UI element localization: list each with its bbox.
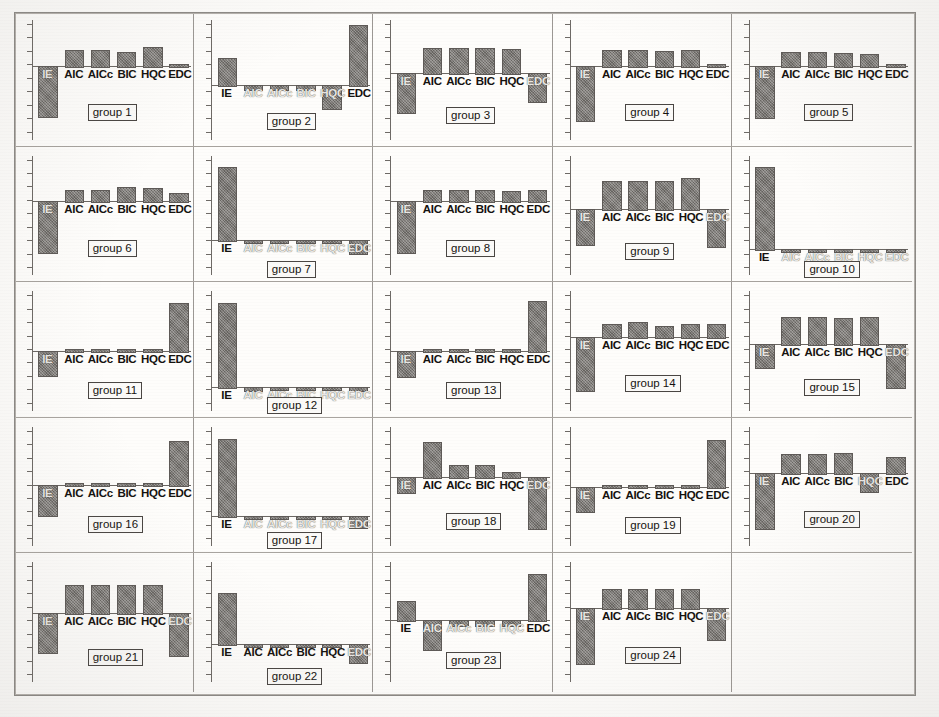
y-axis-tick <box>385 186 391 187</box>
bar <box>218 593 237 646</box>
bar <box>423 48 442 75</box>
y-axis-tick <box>206 160 212 161</box>
bar <box>218 167 237 241</box>
category-label-aic: AIC <box>419 203 446 216</box>
category-label-hqc: HQC <box>499 353 526 366</box>
y-axis-tick <box>206 511 212 512</box>
y-axis-tick <box>565 240 571 241</box>
bar <box>628 322 647 339</box>
category-label-aic: AIC <box>777 475 804 488</box>
y-axis-tick <box>206 376 212 377</box>
category-label-bic: BIC <box>651 489 678 502</box>
category-label-ie: IE <box>572 339 599 352</box>
bar <box>475 465 494 479</box>
category-label-aic: AIC <box>240 646 267 659</box>
panel-group-label: group 24 <box>625 647 680 664</box>
category-label-edc: EDC <box>346 87 373 100</box>
y-axis-tick <box>565 160 571 161</box>
chart-panel: IEAICAICcBICHQCEDCgroup 23 <box>374 556 553 692</box>
y-axis-tick <box>27 254 33 255</box>
chart-panel: IEAICAICcBICHQCEDCgroup 1 <box>16 14 195 150</box>
chart-panel: IEAICAICcBICHQCEDCgroup 11 <box>16 285 195 421</box>
category-axis-labels: IEAICAICcBICHQCEDC <box>34 67 193 82</box>
y-axis-tick <box>27 580 33 581</box>
category-label-edc: EDC <box>525 479 552 492</box>
panel-column-separator <box>372 14 373 692</box>
category-label-bic: BIC <box>472 622 499 635</box>
y-axis-tick <box>565 254 571 255</box>
bar <box>781 317 800 347</box>
y-axis-tick <box>206 431 212 432</box>
panel-group-label: group 3 <box>446 107 495 124</box>
category-label-aicc: AICc <box>266 518 293 531</box>
y-axis-tick <box>206 674 212 675</box>
bar <box>349 25 368 87</box>
y-axis-tick <box>385 376 391 377</box>
y-axis-tick <box>565 634 571 635</box>
category-label-aicc: AICc <box>445 353 472 366</box>
panel-group-label: group 20 <box>804 511 859 528</box>
category-label-aic: AIC <box>598 489 625 502</box>
panel-row-separator <box>16 281 912 282</box>
bar <box>117 187 136 204</box>
category-label-aic: AIC <box>61 68 88 81</box>
y-axis-tick <box>385 118 391 119</box>
y-axis-tick <box>744 51 750 52</box>
chart-panel: IEAICAICcBICHQCEDCgroup 16 <box>16 421 195 557</box>
category-label-aic: AIC <box>777 68 804 81</box>
bar <box>681 178 700 211</box>
category-label-ie: IE <box>751 68 778 81</box>
category-label-ie: IE <box>34 353 61 366</box>
y-axis-tick <box>565 458 571 459</box>
y-axis-tick <box>565 24 571 25</box>
plot-area <box>213 560 370 684</box>
bar <box>628 50 647 68</box>
category-label-aicc: AICc <box>625 610 652 623</box>
bar <box>475 48 494 75</box>
category-axis-labels: IEAICAICcBICHQCEDC <box>34 202 193 217</box>
category-label-hqc: HQC <box>857 475 884 488</box>
category-label-bic: BIC <box>472 75 499 88</box>
category-axis-labels: IEAICAICcBICHQCEDC <box>213 517 372 532</box>
y-axis-tick <box>565 566 571 567</box>
y-axis-tick <box>385 647 391 648</box>
panel-row-separator <box>16 146 912 147</box>
y-axis-tick <box>206 51 212 52</box>
y-axis-tick <box>565 661 571 662</box>
category-label-hqc: HQC <box>857 251 884 264</box>
category-axis-labels: IEAICAICcBICHQCEDC <box>392 202 551 217</box>
category-label-aicc: AICc <box>445 479 472 492</box>
y-axis-tick <box>27 186 33 187</box>
category-label-bic: BIC <box>293 518 320 531</box>
panel-group-label: group 22 <box>267 668 322 685</box>
chart-panel: IEAICAICcBICHQCEDCgroup 24 <box>554 556 733 692</box>
category-label-aic: AIC <box>240 389 267 402</box>
y-axis-tick <box>744 538 750 539</box>
bar <box>808 317 827 347</box>
bar <box>602 324 621 339</box>
panel-group-label: group 15 <box>804 379 859 396</box>
bar <box>886 457 905 475</box>
category-label-aic: AIC <box>61 487 88 500</box>
y-axis-tick <box>206 37 212 38</box>
y-axis-tick <box>385 444 391 445</box>
panel-group-label: group 4 <box>625 104 674 121</box>
y-axis-tick <box>27 91 33 92</box>
panel-group-label: group 17 <box>267 532 322 549</box>
y-axis-tick <box>565 105 571 106</box>
category-label-bic: BIC <box>114 203 141 216</box>
chart-panel: IEAICAICcBICHQCEDCgroup 2 <box>195 14 374 150</box>
panel-row-separator <box>16 552 912 553</box>
bar <box>860 317 879 347</box>
bar <box>449 465 468 479</box>
y-axis-tick <box>27 322 33 323</box>
y-axis-tick <box>27 511 33 512</box>
plot-area <box>213 154 370 278</box>
chart-panel: IEAICAICcBICHQCEDCgroup 7 <box>195 150 374 286</box>
category-axis-labels: IEAICAICcBICHQCEDC <box>572 210 731 225</box>
y-axis-tick <box>27 132 33 133</box>
bar <box>628 181 647 211</box>
y-axis-tick <box>565 267 571 268</box>
category-label-hqc: HQC <box>319 242 346 255</box>
category-label-bic: BIC <box>472 203 499 216</box>
